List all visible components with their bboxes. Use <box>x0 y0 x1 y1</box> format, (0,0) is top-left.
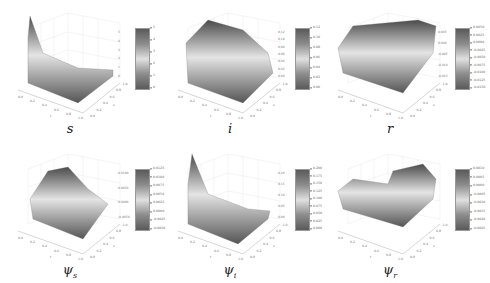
z-axis-tick: 0.04 <box>278 59 285 63</box>
colorbar-tick: 0.0050 <box>470 26 484 29</box>
t-axis-tick: 0.4 <box>362 103 367 107</box>
x-axis-tick: 0.4 <box>103 101 108 105</box>
t-axis-tick: 0.8 <box>66 112 71 116</box>
subplot-label-symbol: s <box>67 121 74 136</box>
z-axis-tick: 5 <box>118 30 120 34</box>
colorbar-tick: 2 <box>150 62 155 65</box>
t-axis-tick: 1.0 <box>398 116 403 120</box>
colorbar-tick: 0.02 <box>310 76 320 79</box>
x-axis-label: x <box>433 103 435 107</box>
z-axis-tick: 0.10 <box>278 37 285 41</box>
t-axis-tick: 0.6 <box>374 108 379 112</box>
t-axis-tick: 0.0 <box>18 95 23 99</box>
colorbar-tick: -0.0100 <box>470 71 485 74</box>
x-axis-tick: 0.2 <box>97 249 102 253</box>
colorbar-tick: -0.0005 <box>470 193 485 196</box>
colorbar-tick: 0.10 <box>310 36 320 39</box>
colorbar <box>455 169 470 231</box>
z-axis-tick: 0.06 <box>278 52 285 56</box>
z-axis-tick: 0.05 <box>278 204 285 208</box>
z-axis-tick: -0.005 <box>438 52 448 56</box>
colorbar-tick: 0.04 <box>310 66 320 69</box>
x-axis-tick: 1.0 <box>123 82 128 86</box>
t-axis-tick: 0.4 <box>42 244 47 248</box>
z-axis-tick: 1 <box>118 65 120 69</box>
colorbar-tick: -0.0015 <box>470 210 485 213</box>
subplot-label-subscript: i <box>234 271 237 280</box>
t-axis-tick: 0.8 <box>386 112 391 116</box>
x-axis-tick: 0.2 <box>257 108 262 112</box>
t-axis-label: t <box>370 114 371 118</box>
colorbar-tick: 0.0010 <box>470 167 484 170</box>
t-axis-tick: 0.4 <box>42 103 47 107</box>
z-axis-tick: 0.20 <box>278 171 285 175</box>
colorbar <box>295 28 310 90</box>
colorbar-tick: -0.0150 <box>470 86 485 89</box>
subplot-psi_r: 0.00.20.40.60.81.0t0.00.20.40.60.81.0x0.… <box>320 141 480 282</box>
z-axis-tick: -0.010 <box>438 63 448 67</box>
t-axis-tick: 0.4 <box>202 244 207 248</box>
subplot-label-symbol: ψ <box>63 262 73 277</box>
subplot-label-symbol: ψ <box>383 262 393 277</box>
subplot-label: i <box>210 121 250 136</box>
t-axis-tick: 0.8 <box>66 253 71 257</box>
x-axis-tick: 0.8 <box>436 229 441 233</box>
x-axis-tick: 0.2 <box>417 249 422 253</box>
x-axis-tick: 0.8 <box>276 88 281 92</box>
colorbar-tick: -0.0010 <box>470 202 485 205</box>
z-axis-tick: 0.15 <box>278 182 285 186</box>
z-axis-tick: 0.08 <box>278 45 285 49</box>
subplot-label-subscript: r <box>393 271 397 280</box>
z-axis-tick: 0.12 <box>278 30 285 34</box>
colorbar-tick: 0.0025 <box>470 34 484 37</box>
z-axis-tick: 0.02 <box>278 67 285 71</box>
z-axis-tick: 0.005 <box>438 30 447 34</box>
t-axis-tick: 0.0 <box>338 236 343 240</box>
x-axis-tick: 0.4 <box>263 101 268 105</box>
colorbar-tick: 3 <box>150 50 155 53</box>
x-axis-tick: 0.4 <box>423 101 428 105</box>
x-axis-label: x <box>433 244 435 248</box>
x-axis-tick: 1.0 <box>443 82 448 86</box>
t-axis-tick: 0.6 <box>374 249 379 253</box>
x-axis-tick: 1.0 <box>443 223 448 227</box>
subplot-label-symbol: ψ <box>224 262 234 277</box>
colorbar-tick: 0.08 <box>310 46 320 49</box>
colorbar-tick: 0.06 <box>310 56 320 59</box>
t-axis-label: t <box>370 255 371 259</box>
t-axis-label: t <box>50 255 51 259</box>
z-axis-tick: 0.10 <box>278 193 285 197</box>
t-axis-tick: 0.8 <box>226 112 231 116</box>
x-axis-tick: 0.8 <box>276 229 281 233</box>
colorbar-tick: -0.0025 <box>470 227 485 230</box>
x-axis-tick: 0.6 <box>270 236 275 240</box>
x-axis-tick: 0.2 <box>97 108 102 112</box>
x-axis-tick: 0.2 <box>417 108 422 112</box>
colorbar-tick: 5 <box>150 26 155 29</box>
colorbar-tick: 0.0000 <box>470 185 484 188</box>
colorbar <box>135 28 150 90</box>
x-axis-tick: 0.0 <box>250 114 255 118</box>
t-axis-tick: 0.6 <box>54 108 59 112</box>
t-axis-tick: 0.6 <box>214 249 219 253</box>
t-axis-tick: 0.0 <box>18 236 23 240</box>
subplot-label: ψr <box>370 262 410 280</box>
t-axis-tick: 0.6 <box>214 108 219 112</box>
t-axis-tick: 1.0 <box>78 116 83 120</box>
t-axis-tick: 0.0 <box>178 236 183 240</box>
z-axis-tick: -0.015 <box>438 74 448 78</box>
x-axis-tick: 0.0 <box>410 255 415 259</box>
z-axis-tick: 0.0000 <box>118 200 129 204</box>
x-axis-tick: 0.4 <box>423 242 428 246</box>
colorbar-tick: 0.0005 <box>470 176 484 179</box>
colorbar-tick: -0.0050 <box>470 56 485 59</box>
x-axis-tick: 0.8 <box>116 229 121 233</box>
x-axis-tick: 0.0 <box>90 114 95 118</box>
t-axis-tick: 0.6 <box>54 249 59 253</box>
z-axis-tick: 3 <box>118 48 120 52</box>
t-axis-label: t <box>210 255 211 259</box>
subplot-label: ψi <box>210 262 250 280</box>
x-axis-label: x <box>273 103 275 107</box>
subplot-label-subscript: s <box>73 271 77 280</box>
t-axis-tick: 0.2 <box>350 240 355 244</box>
